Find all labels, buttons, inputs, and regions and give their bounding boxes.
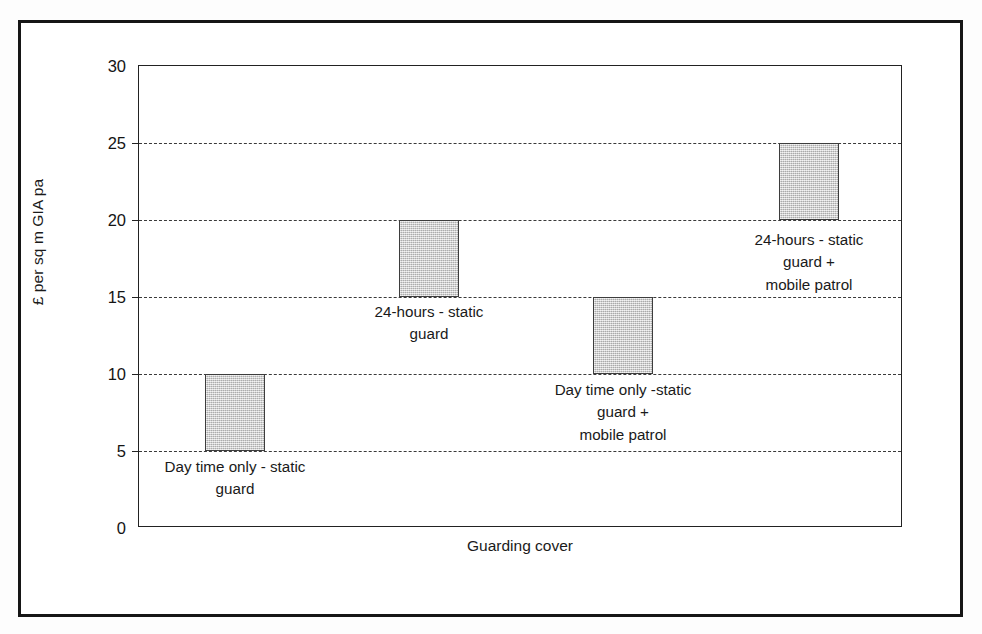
y-tick-label-25: 25 — [108, 134, 126, 153]
bar-2 — [399, 220, 459, 297]
x-axis-title: Guarding cover — [138, 537, 902, 555]
plot-area: 051015202530 Day time only - static guar… — [138, 65, 902, 527]
y-tick-mark-15 — [132, 297, 139, 298]
y-tick-label-10: 10 — [108, 365, 126, 384]
bar-label-4: 24-hours - static guard + mobile patrol — [699, 229, 919, 296]
gridline-5 — [139, 451, 901, 452]
y-tick-label-30: 30 — [108, 57, 126, 76]
chart-figure: £ per sq m GIA pa Guarding cover 0510152… — [0, 0, 982, 634]
bar-3 — [593, 297, 653, 374]
gridline-20 — [139, 220, 901, 221]
y-tick-label-20: 20 — [108, 211, 126, 230]
gridline-15 — [139, 297, 901, 298]
y-tick-mark-5 — [132, 451, 139, 452]
bar-4 — [779, 143, 839, 220]
y-tick-label-15: 15 — [108, 288, 126, 307]
y-tick-mark-25 — [132, 143, 139, 144]
bar-1 — [205, 374, 265, 451]
bar-label-1: Day time only - static guard — [125, 456, 345, 501]
y-tick-label-0: 0 — [117, 519, 126, 538]
bar-label-3: Day time only -static guard + mobile pat… — [513, 379, 733, 446]
y-tick-mark-10 — [132, 374, 139, 375]
y-axis-title: £ per sq m GIA pa — [29, 142, 47, 342]
y-tick-mark-20 — [132, 220, 139, 221]
bar-label-2: 24-hours - static guard — [319, 301, 539, 346]
